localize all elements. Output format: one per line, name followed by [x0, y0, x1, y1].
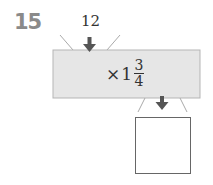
- input-funnel-right: [107, 35, 120, 50]
- operation-symbol: ×: [106, 64, 120, 84]
- operation-fraction: 3 4: [134, 58, 144, 89]
- input-funnel-left: [60, 35, 73, 50]
- fraction-numerator: 3: [135, 58, 144, 73]
- fraction-denominator: 4: [135, 74, 144, 89]
- output-funnel-right: [180, 98, 187, 112]
- output-answer-box[interactable]: [135, 117, 191, 174]
- output-funnel-left: [138, 98, 145, 112]
- operation-whole: 1: [121, 64, 132, 84]
- operation-label: × 1 3 4: [106, 58, 144, 89]
